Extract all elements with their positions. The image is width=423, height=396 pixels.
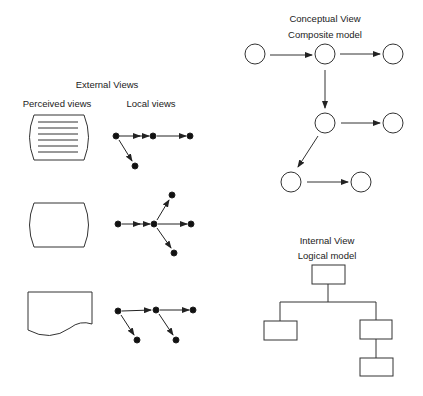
local-graph-1 xyxy=(113,133,193,169)
local-graph-3 xyxy=(115,307,196,343)
grandchild-record xyxy=(360,358,393,376)
screen-display-icon xyxy=(30,115,89,160)
internal-tree xyxy=(264,265,393,376)
conceptual-graph xyxy=(245,44,403,192)
local-graph-2 xyxy=(115,192,194,256)
left-child-record xyxy=(264,321,297,340)
diagram-canvas xyxy=(0,0,423,396)
root-record xyxy=(312,265,345,284)
display-shape-icon xyxy=(30,203,89,247)
document-shape-icon xyxy=(28,292,92,336)
right-child-record xyxy=(360,320,392,339)
